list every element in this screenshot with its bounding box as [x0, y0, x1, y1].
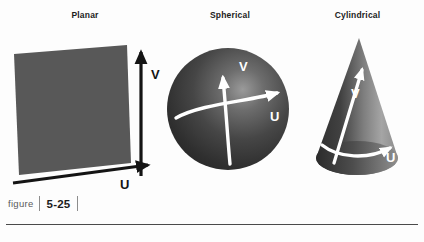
- horizontal-rule: [6, 224, 418, 225]
- figure-caption-word: figure: [8, 198, 34, 209]
- spherical-shape-group: V U: [167, 48, 289, 170]
- planar-u-label: U: [120, 177, 129, 192]
- figure-caption-number: 5-25: [45, 198, 73, 210]
- planar-quad: [14, 45, 131, 175]
- cone-v-label: V: [351, 86, 360, 101]
- caption-left-bar: [39, 196, 40, 211]
- planar-v-label: V: [151, 67, 160, 82]
- sphere-u-label: U: [270, 109, 279, 124]
- planar-shape-group: V U: [13, 45, 160, 192]
- sphere-v-label: V: [239, 59, 248, 74]
- caption-right-bar: [77, 196, 78, 211]
- cone-u-label: U: [386, 150, 395, 165]
- figure-caption: figure 5-25: [8, 196, 78, 211]
- cylindrical-shape-group: V U: [316, 38, 398, 175]
- figure-illustration: Planar Spherical Cylindrical: [0, 0, 424, 242]
